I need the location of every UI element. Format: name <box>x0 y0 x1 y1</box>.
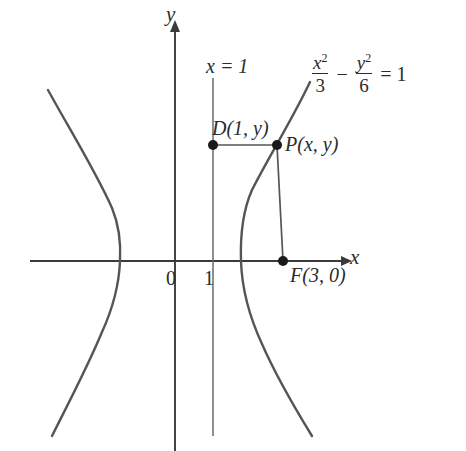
segment-p-to-f <box>277 145 283 261</box>
fraction-y-squared-over-6: y2 6 <box>354 52 374 95</box>
point-f-marker <box>278 256 288 266</box>
x-axis-label: x <box>350 247 359 268</box>
x-tick-label-1: 1 <box>204 268 214 288</box>
minus-operator: − <box>335 64 348 84</box>
directrix-label: x = 1 <box>206 56 248 76</box>
hyperbola-figure: y x 0 1 x = 1 D(1, y) P(x, y) F(3, 0) x2… <box>0 0 466 451</box>
point-p-marker <box>272 140 282 150</box>
fraction-denominator-6: 6 <box>356 73 372 95</box>
equals-one: = 1 <box>379 64 407 84</box>
point-f-label: F(3, 0) <box>290 265 346 285</box>
point-d-marker <box>208 140 218 150</box>
fraction-denominator-3: 3 <box>312 73 328 95</box>
origin-tick-label: 0 <box>166 268 176 288</box>
exponent-2-x: 2 <box>321 51 327 65</box>
y-axis-label: y <box>166 4 175 25</box>
exponent-2-y: 2 <box>365 51 371 65</box>
y-axis <box>170 20 180 451</box>
point-d-label: D(1, y) <box>212 118 269 138</box>
point-p-label: P(x, y) <box>285 134 338 154</box>
fraction-x-squared-over-3: x2 3 <box>310 52 330 95</box>
variable-y: y <box>357 52 365 73</box>
hyperbola-left-branch <box>48 90 120 436</box>
fraction-numerator-x: x2 <box>310 52 330 73</box>
hyperbola-equation: x2 3 − y2 6 = 1 <box>310 52 407 95</box>
fraction-numerator-y: y2 <box>354 52 374 73</box>
